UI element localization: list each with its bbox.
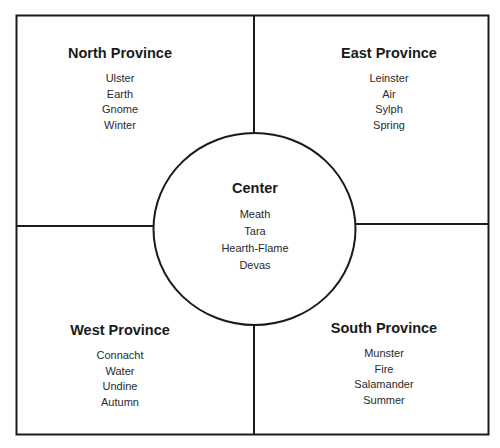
south-title: South Province — [294, 320, 474, 336]
north-item: Earth — [30, 87, 210, 103]
south-item: Salamander — [294, 377, 474, 393]
north-item: Ulster — [30, 71, 210, 87]
center-title: Center — [165, 180, 345, 196]
center-item: Devas — [165, 257, 345, 274]
south-item: Munster — [294, 346, 474, 362]
west-item: Undine — [30, 379, 210, 395]
west-item: Autumn — [30, 395, 210, 411]
east-province: East Province Leinster Air Sylph Spring — [299, 45, 479, 133]
north-item: Gnome — [30, 102, 210, 118]
south-item: Summer — [294, 393, 474, 409]
center-item: Tara — [165, 223, 345, 240]
west-province: West Province Connacht Water Undine Autu… — [30, 322, 210, 410]
north-item: Winter — [30, 118, 210, 134]
east-item: Leinster — [299, 71, 479, 87]
north-province: North Province Ulster Earth Gnome Winter — [30, 45, 210, 133]
west-item: Connacht — [30, 348, 210, 364]
north-title: North Province — [30, 45, 210, 61]
east-item: Air — [299, 87, 479, 103]
south-province: South Province Munster Fire Salamander S… — [294, 320, 474, 408]
west-item: Water — [30, 364, 210, 380]
west-title: West Province — [30, 322, 210, 338]
center-item: Hearth-Flame — [165, 240, 345, 257]
east-title: East Province — [299, 45, 479, 61]
east-item: Spring — [299, 118, 479, 134]
center-region: Center Meath Tara Hearth-Flame Devas — [165, 180, 345, 274]
south-item: Fire — [294, 362, 474, 378]
center-item: Meath — [165, 206, 345, 223]
east-item: Sylph — [299, 102, 479, 118]
